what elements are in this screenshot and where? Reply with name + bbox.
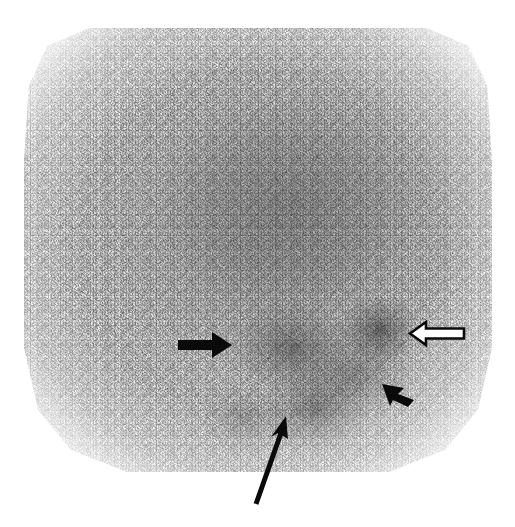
scintigraphy-figure <box>0 0 515 527</box>
scan-field-of-view <box>24 28 492 472</box>
field-edge-falloff <box>24 28 492 472</box>
annotation-arrow-long-upright <box>248 412 304 508</box>
annotation-arrow-short-upleft <box>378 378 420 410</box>
annotation-arrow-hollow-left <box>406 318 468 350</box>
annotation-arrow-solid-right <box>176 329 234 361</box>
